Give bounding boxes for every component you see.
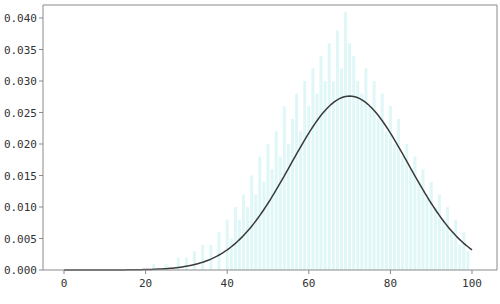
histogram-bar: [438, 194, 441, 270]
histogram-bar: [185, 257, 188, 270]
histogram-bar: [434, 207, 437, 270]
x-tick-label: 0: [61, 277, 68, 290]
y-tick-label: 0.030: [4, 75, 37, 88]
histogram-bar: [238, 220, 241, 270]
histogram-bar: [454, 220, 457, 270]
histogram-bar: [242, 194, 245, 270]
x-ticks: 020406080100: [61, 270, 482, 290]
histogram-bar: [426, 194, 429, 270]
axes: [43, 5, 497, 270]
histogram-bar: [446, 207, 449, 270]
y-tick-label: 0.035: [4, 44, 37, 57]
x-tick-label: 80: [384, 277, 397, 290]
histogram-bar: [360, 94, 363, 270]
histogram-bar: [226, 220, 229, 270]
histogram-bar: [348, 43, 351, 270]
y-tick-label: 0.040: [4, 12, 37, 25]
x-tick-label: 60: [302, 277, 315, 290]
y-tick-label: 0.025: [4, 107, 37, 120]
x-tick-label: 40: [221, 277, 234, 290]
histogram-bar: [458, 245, 461, 270]
histogram-bar: [201, 245, 204, 270]
chart: 020406080100 0.0000.0050.0100.0150.0200.…: [0, 0, 500, 304]
histogram-bar: [344, 12, 347, 270]
histogram-bar: [287, 144, 290, 270]
histogram-bar: [356, 81, 359, 270]
histogram-bar: [418, 182, 421, 270]
histogram-bar: [320, 56, 323, 270]
histogram-bars: [152, 12, 469, 270]
histogram-bar: [275, 131, 278, 270]
histogram-bar: [299, 131, 302, 270]
histogram-bar: [193, 251, 196, 270]
histogram-bar: [209, 245, 212, 270]
y-tick-label: 0.000: [4, 264, 37, 277]
histogram-bar: [295, 94, 298, 270]
x-tick-label: 100: [462, 277, 482, 290]
x-tick-label: 20: [139, 277, 152, 290]
histogram-bar: [283, 106, 286, 270]
histogram-bar: [377, 119, 380, 270]
histogram-bar: [230, 239, 233, 271]
histogram-bar: [401, 157, 404, 270]
histogram-bar: [430, 182, 433, 270]
histogram-bar: [422, 169, 425, 270]
y-tick-label: 0.020: [4, 138, 37, 151]
histogram-bar: [369, 106, 372, 270]
y-tick-label: 0.010: [4, 201, 37, 214]
histogram-bar: [364, 68, 367, 270]
histogram-bar: [234, 207, 237, 270]
histogram-bar: [385, 131, 388, 270]
histogram-bar: [466, 251, 469, 270]
histogram-bar: [246, 207, 249, 270]
histogram-bar: [267, 144, 270, 270]
histogram-bar: [336, 31, 339, 270]
histogram-bar: [442, 220, 445, 270]
y-tick-label: 0.005: [4, 233, 37, 246]
histogram-bar: [450, 232, 453, 270]
histogram-bar: [218, 232, 221, 270]
histogram-bar: [332, 81, 335, 270]
histogram-bar: [254, 194, 257, 270]
histogram-bar: [352, 56, 355, 270]
histogram-bar: [291, 119, 294, 270]
histogram-bar: [328, 43, 331, 270]
histogram-bar: [303, 81, 306, 270]
histogram-bar: [271, 169, 274, 270]
histogram-bar: [279, 157, 282, 270]
histogram-bar: [250, 176, 253, 271]
histogram-bar: [393, 144, 396, 270]
histogram-bar: [409, 169, 412, 270]
histogram-bar: [262, 182, 265, 270]
histogram-bar: [311, 68, 314, 270]
histogram-bar: [397, 119, 400, 270]
y-ticks: 0.0000.0050.0100.0150.0200.0250.0300.035…: [4, 12, 43, 277]
y-tick-label: 0.015: [4, 170, 37, 183]
histogram-bar: [462, 232, 465, 270]
